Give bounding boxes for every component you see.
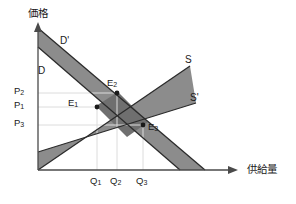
curve-label-d-prime: D' — [60, 36, 69, 46]
price-tick-p2-sub: 2 — [20, 89, 24, 96]
quantity-tick-q2-sub: 2 — [117, 179, 121, 186]
point-label-e1: E1 — [68, 98, 78, 108]
y-axis-title: 価格 — [28, 8, 48, 19]
point-label-e2-sub: 2 — [113, 81, 117, 88]
price-tick-p2: P2 — [14, 86, 24, 96]
price-tick-p1-sub: 1 — [20, 103, 24, 110]
point-label-e3-sub: 3 — [154, 125, 158, 132]
x-axis-title: 供給量 — [247, 164, 277, 175]
curve-label-s: S — [185, 55, 192, 65]
x-axis-arrow-icon — [228, 166, 238, 174]
price-tick-p1: P1 — [14, 100, 24, 110]
curve-label-s-prime: S' — [190, 93, 199, 103]
equilibrium-point-e3 — [141, 123, 146, 128]
equilibrium-point-e1 — [95, 105, 100, 110]
equilibrium-point-e2 — [115, 91, 120, 96]
point-label-e1-sub: 1 — [74, 101, 78, 108]
quantity-tick-q1: Q1 — [90, 176, 101, 186]
quantity-tick-q3: Q3 — [136, 176, 147, 186]
supply-demand-chart: 価格 供給量 D' D S S' E1 E2 E3 P2 P1 P3 Q1 Q2… — [0, 0, 296, 204]
price-tick-p3: P3 — [14, 118, 24, 128]
point-label-e3: E3 — [148, 122, 158, 132]
curve-label-d: D — [38, 66, 45, 76]
quantity-tick-q2: Q2 — [110, 176, 121, 186]
point-label-e2: E2 — [107, 78, 117, 88]
y-axis-arrow-icon — [34, 22, 42, 32]
quantity-tick-q1-sub: 1 — [97, 179, 101, 186]
price-tick-p3-sub: 3 — [20, 121, 24, 128]
quantity-tick-q3-sub: 3 — [143, 179, 147, 186]
